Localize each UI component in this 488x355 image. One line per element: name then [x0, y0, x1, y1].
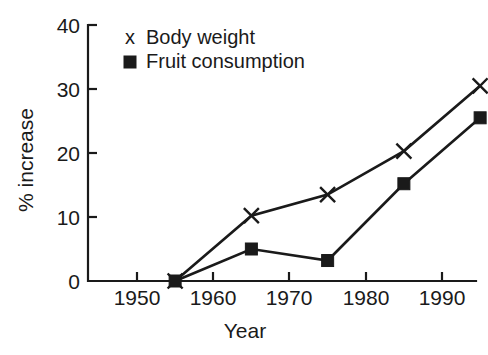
data-point-marker [398, 178, 410, 190]
y-tick-label-10: 10 [57, 206, 80, 229]
data-point-marker [473, 78, 488, 93]
legend-label-fruit-consumption: Fruit consumption [146, 50, 305, 72]
legend-marker-x-icon: x [125, 26, 135, 48]
data-point-marker [320, 187, 335, 202]
x-axis-title: Year [224, 319, 266, 342]
series-fruit-consumption-markers [169, 112, 486, 287]
x-tick-label-1970: 1970 [266, 286, 313, 309]
data-point-marker [169, 275, 181, 287]
x-tick-label-1950: 1950 [114, 286, 161, 309]
y-tick-label-40: 40 [57, 14, 80, 37]
chart-canvas: 40 30 20 10 0 1950 1960 1970 1980 1990 Y… [0, 0, 488, 355]
legend: x Body weight Fruit consumption [124, 26, 305, 72]
series-body-weight-line [175, 86, 480, 281]
series-fruit-consumption [169, 112, 486, 287]
legend-marker-square-icon [124, 56, 136, 68]
legend-label-body-weight: Body weight [146, 26, 255, 48]
y-tick-label-20: 20 [57, 142, 80, 165]
y-axis-tick-labels: 40 30 20 10 0 [57, 14, 80, 293]
data-point-marker [396, 144, 411, 159]
data-point-marker [245, 243, 257, 255]
x-tick-label-1960: 1960 [190, 286, 237, 309]
y-tick-label-0: 0 [68, 270, 80, 293]
data-point-marker [474, 112, 486, 124]
legend-entry-body-weight: x Body weight [125, 26, 255, 48]
legend-entry-fruit-consumption: Fruit consumption [124, 50, 305, 72]
x-tick-label-1990: 1990 [419, 286, 466, 309]
y-tick-label-30: 30 [57, 78, 80, 101]
data-point-marker [322, 255, 334, 267]
x-axis-tick-labels: 1950 1960 1970 1980 1990 [114, 286, 466, 309]
data-point-marker [244, 208, 259, 223]
line-chart-figure: 40 30 20 10 0 1950 1960 1970 1980 1990 Y… [0, 0, 488, 355]
y-axis-title: % increase [14, 108, 37, 212]
x-tick-label-1980: 1980 [343, 286, 390, 309]
